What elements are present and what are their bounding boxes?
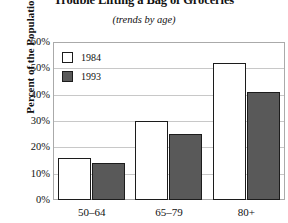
bar xyxy=(213,63,246,200)
bar-group xyxy=(208,42,285,200)
x-tick-label: 50–64 xyxy=(52,206,132,218)
bar xyxy=(169,134,202,200)
bar xyxy=(135,121,168,200)
y-tick-label: 60% xyxy=(10,37,50,48)
y-tick-label: 30% xyxy=(10,116,50,127)
y-tick-label: 50% xyxy=(10,63,50,74)
chart-legend: 1984 1993 xyxy=(62,50,101,88)
bar xyxy=(247,92,280,200)
y-tick-label: 40% xyxy=(10,90,50,101)
bar xyxy=(58,158,91,200)
y-tick-label: 20% xyxy=(10,142,50,153)
x-tick-label: 65–79 xyxy=(129,206,209,218)
chart-figure: Trouble Lifting a Bag of Groceries (tren… xyxy=(0,0,288,223)
legend-item: 1993 xyxy=(62,69,101,84)
y-tick-label: 0% xyxy=(10,195,50,206)
legend-item: 1984 xyxy=(62,50,101,65)
legend-swatch-icon xyxy=(62,52,73,63)
chart-title: Trouble Lifting a Bag of Groceries xyxy=(0,0,288,8)
y-tick-label: 10% xyxy=(10,169,50,180)
legend-label: 1993 xyxy=(81,72,101,82)
bar-group xyxy=(130,42,207,200)
chart-subtitle: (trends by age) xyxy=(0,14,288,25)
legend-swatch-icon xyxy=(62,71,73,82)
bar xyxy=(92,163,125,200)
x-tick-label: 80+ xyxy=(206,206,286,218)
legend-label: 1984 xyxy=(81,53,101,63)
